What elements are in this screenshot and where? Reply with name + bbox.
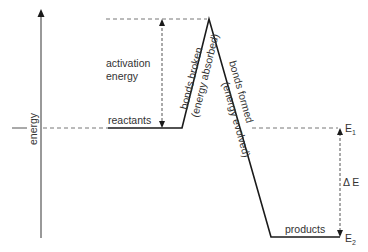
products-label: products	[285, 223, 325, 235]
activation-label-line2: energy	[106, 70, 139, 82]
e2-label: E2	[345, 232, 356, 246]
activation-energy-arrow	[159, 19, 165, 128]
activation-label-line1: activation	[106, 57, 151, 69]
reactants-label: reactants	[108, 114, 151, 126]
delta-e-label: Δ E	[343, 176, 359, 188]
axis-label-energy: energy	[27, 112, 39, 145]
e1-label: E1	[345, 122, 356, 136]
energy-profile-diagram: energy activation energy reactants produ…	[0, 0, 368, 252]
axis-arrow-icon	[38, 9, 45, 17]
reaction-path	[108, 19, 340, 237]
